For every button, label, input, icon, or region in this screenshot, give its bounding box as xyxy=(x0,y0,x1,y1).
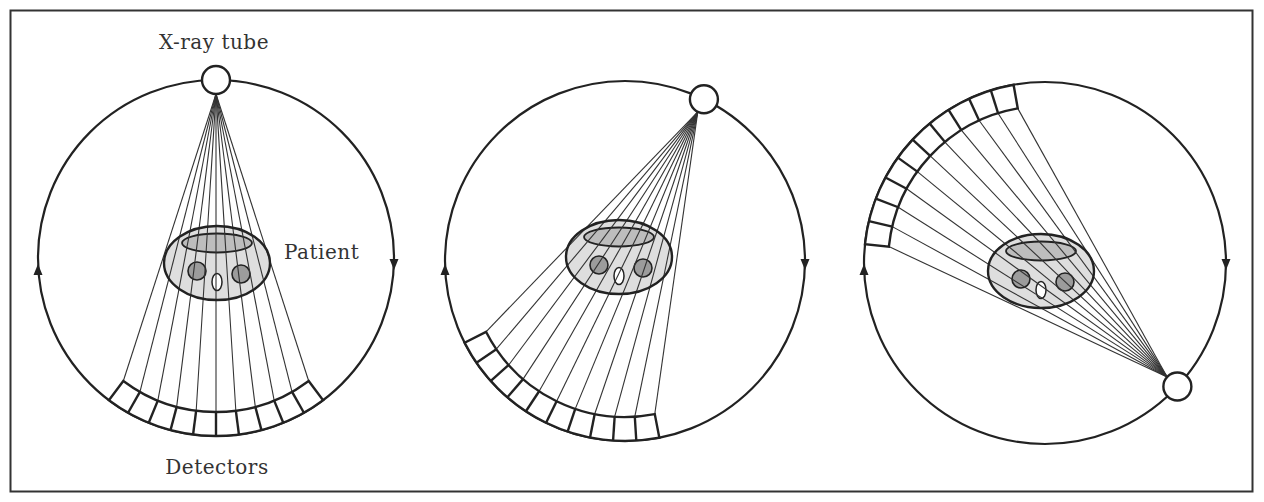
patient-right-organ xyxy=(232,265,250,283)
patient-spine xyxy=(614,268,624,285)
ct-scanner-diagram: X-ray tube Patient Detectors xyxy=(0,0,1264,502)
patient-spine xyxy=(1036,282,1046,299)
x-ray-tube-icon xyxy=(690,85,718,113)
detector-cell-divider xyxy=(613,417,615,441)
patient-label: Patient xyxy=(284,240,359,264)
patient-top-organ xyxy=(182,234,252,253)
patient-right-organ xyxy=(634,259,652,277)
x-ray-tube-icon xyxy=(1163,372,1191,400)
x-ray-tube-label: X-ray tube xyxy=(159,30,269,54)
patient-left-organ xyxy=(590,256,608,274)
patient-left-organ xyxy=(188,262,206,280)
detector-cell-divider xyxy=(635,417,637,441)
detectors-label: Detectors xyxy=(165,455,268,479)
patient-spine xyxy=(212,274,222,291)
x-ray-tube-icon xyxy=(202,66,230,94)
